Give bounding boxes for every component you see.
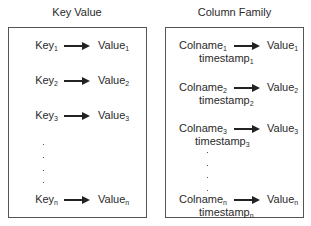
- cf-timestamp: timestampn: [199, 206, 254, 218]
- cf-value: Value1: [267, 39, 298, 51]
- kv-key: Key3: [35, 109, 58, 121]
- kv-value: Value3: [98, 109, 129, 121]
- kv-key: Key2: [35, 74, 58, 86]
- cf-row-n: Colnamen Valuen timestampn: [166, 193, 303, 207]
- arrow-icon: [64, 80, 90, 82]
- cf-colname: Colname3: [179, 122, 227, 134]
- column-family-box: Colname1 Value1 timestamp1 Colname2 Valu…: [165, 27, 304, 218]
- cf-value: Value2: [267, 81, 298, 93]
- arrow-icon: [64, 45, 90, 47]
- cf-row-1: Colname1 Value1 timestamp1: [166, 39, 303, 53]
- kv-value: Valuen: [98, 193, 129, 205]
- arrow-icon: [234, 45, 260, 47]
- kv-row-2: Key2 Value2: [9, 74, 146, 88]
- cf-value: Value3: [267, 122, 298, 134]
- kv-row-n: Keyn Valuen: [9, 193, 146, 207]
- kv-value: Value2: [98, 74, 129, 86]
- key-value-title: Key Value: [8, 6, 146, 18]
- kv-key: Key1: [35, 39, 58, 51]
- kv-value: Value1: [98, 39, 129, 51]
- cf-row-2: Colname2 Value2 timestamp2: [166, 81, 303, 95]
- arrow-icon: [234, 199, 260, 201]
- cf-timestamp: timestamp1: [199, 52, 254, 64]
- cf-colname: Colname2: [179, 81, 227, 93]
- arrow-icon: [234, 128, 260, 130]
- kv-row-1: Key1 Value1: [9, 39, 146, 53]
- cf-timestamp: timestamp3: [195, 135, 250, 147]
- arrow-icon: [234, 87, 260, 89]
- kv-row-3: Key3 Value3: [9, 109, 146, 123]
- arrow-icon: [64, 115, 90, 117]
- key-value-box: Key1 Value1 Key2 Value2 Key3 Value3 Keyn…: [8, 27, 147, 218]
- kv-key: Keyn: [35, 193, 58, 205]
- cf-row-3: Colname3 Value3 timestamp3: [166, 122, 303, 136]
- cf-colname: Colname1: [179, 39, 227, 51]
- cf-timestamp: timestamp2: [199, 94, 254, 106]
- column-family-title: Column Family: [165, 6, 304, 18]
- arrow-icon: [64, 199, 90, 201]
- cf-colname: Colnamen: [179, 193, 227, 205]
- cf-value: Valuen: [267, 193, 298, 205]
